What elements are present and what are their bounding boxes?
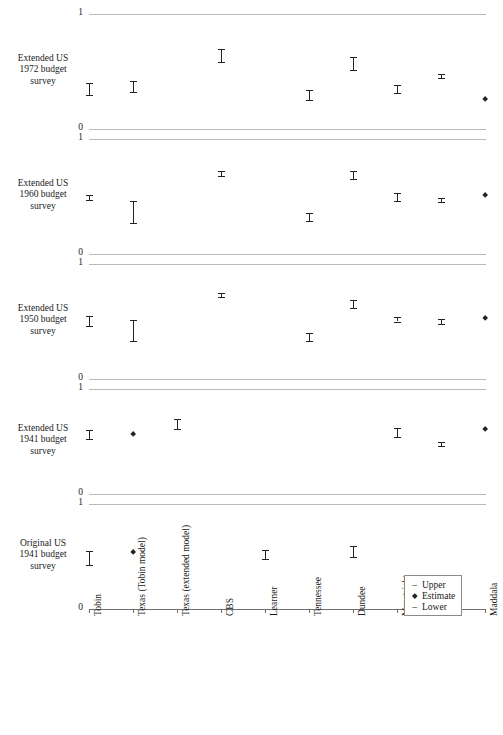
legend-item-upper: –Upper	[409, 579, 455, 590]
error-bar-cap-upper	[350, 546, 357, 547]
estimate-dot-icon	[409, 594, 420, 598]
x-tick	[221, 609, 222, 613]
panel-label-line: survey	[4, 561, 82, 573]
x-axis-label-3: CBS	[225, 598, 235, 616]
panel-label-original-us-1941-budget-survey: Original US1941 budgetsurvey	[4, 538, 82, 574]
error-bar-line	[353, 546, 354, 557]
x-axis-label-1: Texas (Tobin model)	[137, 537, 147, 616]
x-tick	[309, 609, 310, 613]
error-bar-cap-upper	[86, 551, 93, 552]
estimate-dot	[130, 549, 136, 555]
legend: –UpperEstimate–Lower	[404, 575, 462, 616]
panel-label-line: 1941 budget	[4, 549, 82, 561]
dot-shape	[412, 593, 417, 598]
legend-item-lower: –Lower	[409, 601, 455, 612]
x-tick	[485, 609, 486, 613]
forest-plot-figure: 10Extended US1972 budgetsurvey10Extended…	[0, 0, 503, 735]
error-bar-line	[265, 550, 266, 558]
error-bar-cap-upper	[262, 550, 269, 551]
error-bar-line	[89, 551, 90, 565]
legend-item-estimate: Estimate	[409, 590, 455, 601]
error-bar-cap-lower	[350, 557, 357, 558]
x-tick	[89, 609, 90, 613]
x-axis-label-0: Tobin	[93, 594, 103, 616]
panel-original-us-1941-budget-survey: 10Original US1941 budgetsurvey	[0, 0, 503, 735]
dash-icon: –	[409, 602, 420, 612]
y-tick-label: 0	[61, 602, 83, 612]
x-tick	[133, 609, 134, 613]
gridline-upper	[89, 504, 486, 505]
x-axis-label-5: Tennessee	[313, 577, 323, 616]
error-bar-cap-lower	[262, 559, 269, 560]
x-tick	[177, 609, 178, 613]
x-tick	[397, 609, 398, 613]
x-tick	[353, 609, 354, 613]
y-tick-label: 1	[61, 497, 83, 507]
legend-label: Upper	[420, 580, 446, 590]
legend-label: Lower	[420, 602, 447, 612]
x-tick	[265, 609, 266, 613]
error-bar-cap-lower	[86, 565, 93, 566]
x-axis-label-9: Maddala	[489, 583, 499, 616]
legend-label: Estimate	[420, 591, 455, 601]
x-axis-label-2: Texas (extended model)	[181, 525, 191, 616]
x-axis-label-4: Learner	[269, 586, 279, 616]
dash-icon: –	[409, 580, 420, 590]
panel-label-line: Original US	[4, 538, 82, 550]
x-axis-label-6: Dundee	[357, 586, 367, 616]
